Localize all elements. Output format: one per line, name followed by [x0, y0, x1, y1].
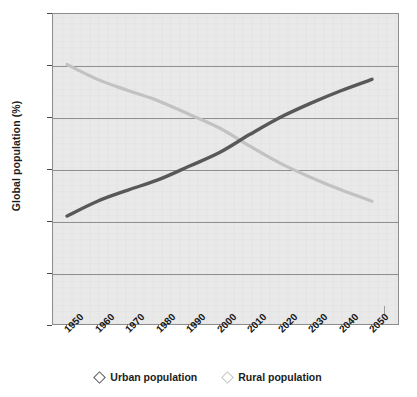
- y-tick-mark-84: [47, 13, 52, 14]
- series-lines: [53, 14, 399, 325]
- legend-item-urban: Urban population: [95, 371, 197, 383]
- x-tick-mark-2040: [341, 324, 342, 327]
- x-tick-mark-1960: [97, 324, 98, 327]
- y-tick-mark-28: [47, 221, 52, 222]
- legend-label-rural: Rural population: [238, 371, 321, 383]
- urban-population-line: [67, 79, 372, 216]
- y-tick-mark-14: [47, 273, 52, 274]
- legend-label-urban: Urban population: [110, 371, 197, 383]
- chart-legend: Urban population Rural population: [0, 371, 417, 383]
- line-chart: Global population (%) 8470564228140 1950…: [0, 0, 417, 397]
- y-tick-mark-0: [47, 325, 52, 326]
- x-tick-mark-2020: [280, 324, 281, 327]
- x-tick-mark-1970: [127, 324, 128, 327]
- diamond-marker-urban-icon: [93, 371, 106, 384]
- rural-population-line: [67, 65, 372, 202]
- y-tick-mark-42: [47, 169, 52, 170]
- x-tick-mark-2030: [310, 324, 311, 327]
- x-tick-mark-2000: [219, 324, 220, 327]
- x-tick-mark-1950: [66, 324, 67, 327]
- diamond-marker-rural-icon: [221, 371, 234, 384]
- legend-item-rural: Rural population: [223, 371, 321, 383]
- x-tick-mark-2050: [371, 324, 372, 327]
- x-tick-mark-1990: [188, 324, 189, 327]
- plot-area: [52, 13, 399, 325]
- y-tick-mark-56: [47, 117, 52, 118]
- y-tick-mark-70: [47, 65, 52, 66]
- x-tick-mark-2010: [249, 324, 250, 327]
- y-axis-title: Global population (%): [10, 56, 22, 256]
- x-axis-ticks: 1950196019701980199020002010202020302040…: [52, 327, 399, 375]
- x-tick-mark-1980: [158, 324, 159, 327]
